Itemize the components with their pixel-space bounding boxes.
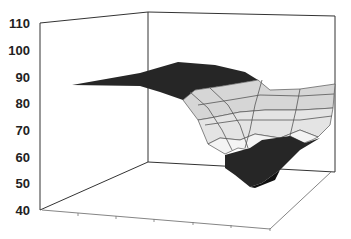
z-tick-80: 80 — [0, 97, 30, 111]
z-tick-90: 90 — [0, 71, 30, 85]
back-left-wall — [40, 12, 148, 210]
z-tick-60: 60 — [0, 151, 30, 165]
z-tick-110: 110 — [0, 17, 30, 31]
z-tick-70: 70 — [0, 124, 30, 138]
z-tick-50: 50 — [0, 177, 30, 191]
floor-front-edge — [42, 172, 331, 229]
surface-plot — [0, 0, 351, 239]
z-tick-40: 40 — [0, 204, 30, 218]
z-tick-100: 100 — [0, 44, 30, 58]
